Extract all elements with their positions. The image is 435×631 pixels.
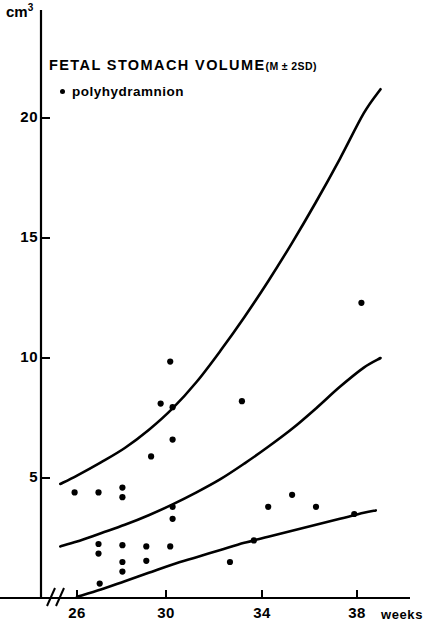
data-point <box>143 543 149 549</box>
data-point <box>170 404 176 410</box>
data-point <box>313 504 319 510</box>
y-axis-unit-text: cm <box>6 3 28 20</box>
chart-title: FETAL STOMACH VOLUME(M ± 2SD) <box>49 57 317 73</box>
y-axis-unit-exponent: 3 <box>28 2 34 13</box>
data-point <box>119 569 125 575</box>
data-point <box>119 559 125 565</box>
chart-title-suffix: (M ± 2SD) <box>266 60 317 72</box>
x-axis-title: weeks <box>381 607 423 622</box>
data-point <box>239 398 245 404</box>
y-tick-label-5: 5 <box>4 468 38 485</box>
x-tick-marks <box>77 590 357 598</box>
data-point <box>72 489 78 495</box>
y-tick-marks <box>41 118 50 478</box>
data-point <box>251 537 257 543</box>
x-tick-label-26: 26 <box>57 604 97 621</box>
data-point <box>119 485 125 491</box>
legend: polyhydramnion <box>60 84 184 99</box>
data-point <box>97 581 103 587</box>
data-point <box>95 489 101 495</box>
chart-title-main: FETAL STOMACH VOLUME <box>49 57 266 73</box>
x-tick-label-34: 34 <box>242 604 282 621</box>
filled-circle-marker-icon <box>60 89 65 94</box>
data-point <box>158 401 164 407</box>
curve-2sd <box>77 510 376 596</box>
data-point <box>95 551 101 557</box>
data-point <box>167 543 173 549</box>
data-point <box>265 504 271 510</box>
data-point <box>289 492 295 498</box>
data-point <box>119 542 125 548</box>
data-point <box>95 541 101 547</box>
y-tick-label-15: 15 <box>4 228 38 245</box>
x-tick-label-38: 38 <box>337 604 377 621</box>
data-point <box>148 453 154 459</box>
curve-2sd <box>60 89 380 484</box>
data-point <box>119 494 125 500</box>
data-point <box>167 359 173 365</box>
y-tick-label-20: 20 <box>4 108 38 125</box>
data-point <box>358 300 364 306</box>
y-axis-unit-label: cm3 <box>6 2 33 20</box>
data-point <box>143 558 149 564</box>
data-point <box>170 504 176 510</box>
data-point <box>170 516 176 522</box>
curve-m <box>60 358 380 546</box>
y-tick-label-10: 10 <box>4 348 38 365</box>
data-point <box>351 511 357 517</box>
data-series-layer <box>60 89 380 597</box>
data-point <box>170 437 176 443</box>
x-tick-label-30: 30 <box>146 604 186 621</box>
chart-figure: cm3 20 15 10 5 26 30 34 38 weeks FETAL S… <box>0 0 435 631</box>
data-point <box>227 559 233 565</box>
legend-label-polyhydramnion: polyhydramnion <box>72 84 184 99</box>
